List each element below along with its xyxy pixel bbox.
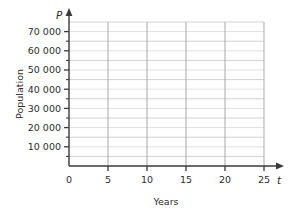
y-axis-ticks [64,32,69,157]
x-axis [69,163,284,170]
xtick-label-25: 25 [258,174,270,185]
population-vs-years-graph: 70 000 60 000 50 000 40 000 30 000 20 00… [0,0,296,216]
xtick-label-5: 5 [105,174,111,185]
chart-canvas: 70 000 60 000 50 000 40 000 30 000 20 00… [0,0,296,216]
y-axis-arrowhead [66,8,73,16]
horizontal-gridlines [69,22,264,156]
xtick-label-15: 15 [180,174,192,185]
ytick-label-30000: 30 000 [28,103,61,114]
vertical-gridlines [108,22,264,166]
ytick-label-70000: 70 000 [28,26,61,37]
ytick-label-60000: 60 000 [28,45,61,56]
xtick-label-0: 0 [66,174,72,185]
x-axis-ticks [108,166,264,171]
xtick-label-20: 20 [219,174,231,185]
y-axis-variable-label: P [56,9,63,21]
y-axis-title: Population [14,69,25,119]
x-axis-tick-labels: 0 5 10 15 20 25 [66,174,270,185]
x-axis-title: Years [152,196,178,207]
x-axis-arrowhead [276,163,284,170]
ytick-label-10000: 10 000 [28,141,61,152]
ytick-label-20000: 20 000 [28,122,61,133]
y-axis-tick-labels: 70 000 60 000 50 000 40 000 30 000 20 00… [28,26,61,152]
ytick-label-50000: 50 000 [28,64,61,75]
x-axis-variable-label: t [277,174,282,186]
xtick-label-10: 10 [141,174,153,185]
ytick-label-40000: 40 000 [28,84,61,95]
